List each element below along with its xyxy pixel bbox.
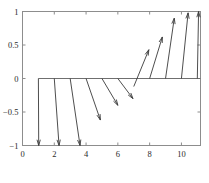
x-tick-label-5: 10 [177,149,186,159]
y-tick-label-2: 0 [14,74,18,84]
plot-canvas: 0246810 −1−0.500.51 [0,0,209,183]
quiver-arrow-2 [70,79,81,146]
arrow-shaft [118,79,133,99]
quiver-arrow-0 [37,79,40,146]
arrow-shaft [102,79,118,106]
arrow-shaft [181,13,188,79]
y-tick-label-3: 0.5 [8,40,19,50]
x-tick-label-3: 6 [116,149,120,159]
y-tick-label-1: −0.5 [3,107,18,117]
x-tick-label-1: 2 [52,149,56,159]
quiver-figure: 0246810 −1−0.500.51 [0,0,209,183]
quiver-arrow-9 [181,13,189,79]
arrow-shaft [197,12,198,79]
x-axis-tick-labels: 0246810 [20,149,185,159]
arrow-shaft [54,79,59,146]
quiver-arrow-6 [134,50,149,87]
quiver-arrow-1 [54,79,60,146]
arrow-shaft [150,37,163,79]
y-axis-tick-labels: −1−0.500.51 [3,7,18,151]
x-tick-label-2: 4 [84,149,89,159]
arrow-shaft [134,50,149,87]
arrow-shaft [86,79,100,121]
quiver-arrow-3 [86,79,100,121]
quiver-arrow-5 [118,79,133,99]
arrow-shaft [166,18,175,78]
quiver-arrow-7 [150,37,163,79]
x-tick-label-0: 0 [20,149,24,159]
x-tick-label-4: 8 [148,149,152,159]
quiver-arrow-8 [166,18,176,78]
quiver-arrow-4 [102,79,118,106]
y-tick-label-4: 1 [14,7,18,17]
y-tick-label-0: −1 [9,141,18,151]
arrow-shaft [70,79,80,146]
